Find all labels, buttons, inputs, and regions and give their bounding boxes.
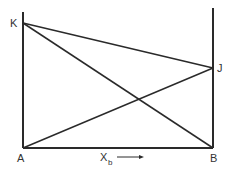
line-k-b bbox=[23, 23, 213, 148]
x-axis-label-subscript: b bbox=[108, 158, 113, 167]
label-b: B bbox=[210, 152, 217, 164]
right-arrow-icon bbox=[117, 155, 144, 159]
diagram-canvas: K J A B X b bbox=[0, 0, 233, 173]
label-k: K bbox=[10, 17, 18, 29]
x-axis-label: X bbox=[100, 151, 108, 163]
label-j: J bbox=[217, 62, 223, 74]
line-a-j bbox=[23, 68, 213, 148]
line-k-j bbox=[23, 23, 213, 68]
label-a: A bbox=[17, 152, 25, 164]
